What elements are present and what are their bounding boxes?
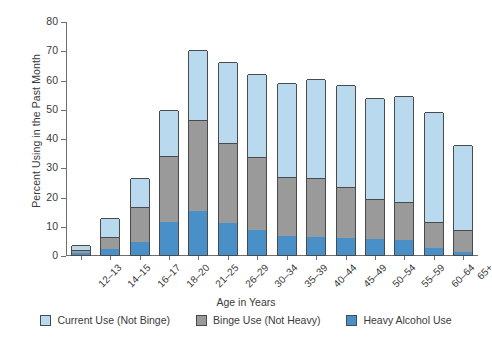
bar-segment-binge [131, 207, 149, 242]
legend-label: Binge Use (Not Heavy) [213, 314, 320, 326]
x-tick-label: 40–44 [331, 262, 358, 289]
bar-segment-binge [366, 199, 384, 239]
bar-segment-binge [248, 157, 266, 230]
y-tick-mark [61, 81, 66, 82]
y-tick-mark [61, 139, 66, 140]
bar-segment-binge [307, 178, 325, 237]
x-tick-mark [434, 256, 435, 260]
plot-area: 01020304050607080 [66, 22, 478, 256]
x-tick-label: 45–49 [361, 262, 388, 289]
bar-segment-binge [219, 143, 237, 223]
bar-segment-current [72, 245, 90, 249]
x-tick-label: 65+ [475, 262, 492, 282]
x-tick-mark [140, 256, 141, 260]
bar-segment-heavy [425, 248, 443, 255]
y-tick-label: 0 [52, 249, 58, 261]
bar-stack [365, 99, 385, 256]
bar-segment-heavy [72, 253, 90, 255]
x-tick-label: 12–13 [96, 262, 123, 289]
bar-segment-heavy [454, 252, 472, 255]
bar-stack [71, 246, 91, 256]
bar-segment-heavy [101, 249, 119, 255]
bar-stack [424, 113, 444, 256]
x-tick-mark [110, 256, 111, 260]
bar-stack [394, 97, 414, 256]
y-tick-mark [61, 256, 66, 257]
bar-segment-binge [101, 237, 119, 249]
bar-stack [306, 80, 326, 256]
bar-segment-current [101, 218, 119, 237]
bar-segment-current [160, 110, 178, 155]
bar-segment-heavy [366, 239, 384, 255]
legend-item: Heavy Alcohol Use [346, 314, 451, 326]
bar-stack [277, 84, 297, 256]
bar-segment-current [219, 62, 237, 143]
bar-segment-current [337, 85, 355, 186]
bar-segment-binge [189, 120, 207, 210]
bar-segment-heavy [307, 237, 325, 255]
x-tick-mark [228, 256, 229, 260]
x-tick-label: 30–34 [272, 262, 299, 289]
bar-segment-current [278, 83, 296, 177]
legend-item: Current Use (Not Binge) [40, 314, 170, 326]
x-tick-mark [198, 256, 199, 260]
bar-stack [100, 219, 120, 256]
x-tick-mark [316, 256, 317, 260]
bar-segment-heavy [278, 236, 296, 255]
x-axis-line [66, 255, 478, 256]
bar-segment-current [131, 178, 149, 207]
x-tick-mark [287, 256, 288, 260]
legend-swatch-icon [40, 315, 51, 326]
bar-segment-binge [72, 250, 90, 253]
bar-segment-binge [160, 156, 178, 223]
bar-segment-heavy [219, 223, 237, 255]
x-tick-label: 26–29 [243, 262, 270, 289]
x-tick-mark [81, 256, 82, 260]
y-tick-label: 70 [46, 44, 58, 56]
bar-segment-heavy [160, 222, 178, 255]
bar-segment-current [425, 112, 443, 222]
y-tick-label: 40 [46, 132, 58, 144]
bar-segment-current [395, 96, 413, 202]
bar-segment-current [307, 79, 325, 179]
bar-segment-heavy [131, 242, 149, 255]
x-tick-label: 50–54 [390, 262, 417, 289]
x-tick-label: 60–64 [449, 262, 476, 289]
bar-stack [188, 51, 208, 256]
legend-swatch-icon [196, 315, 207, 326]
bar-segment-heavy [248, 230, 266, 255]
bar-segment-heavy [395, 240, 413, 255]
bar-segment-heavy [337, 238, 355, 255]
y-axis-title: Percent Using in the Past Month [30, 16, 42, 246]
chart-legend: Current Use (Not Binge)Binge Use (Not He… [0, 314, 492, 326]
y-tick-label: 80 [46, 15, 58, 27]
bar-segment-binge [337, 187, 355, 238]
x-tick-label: 35–39 [302, 262, 329, 289]
bar-segment-binge [454, 230, 472, 251]
bar-stack [130, 179, 150, 256]
y-tick-label: 60 [46, 74, 58, 86]
y-tick-label: 10 [46, 220, 58, 232]
bar-segment-current [454, 145, 472, 231]
bar-stack [247, 75, 267, 256]
bar-segment-current [366, 98, 384, 199]
y-tick-mark [61, 198, 66, 199]
legend-swatch-icon [346, 315, 357, 326]
bar-segment-current [189, 50, 207, 120]
bar-segment-binge [278, 177, 296, 236]
x-tick-mark [463, 256, 464, 260]
x-tick-mark [169, 256, 170, 260]
legend-label: Heavy Alcohol Use [363, 314, 451, 326]
bar-stack [336, 86, 356, 256]
legend-label: Current Use (Not Binge) [57, 314, 170, 326]
bar-segment-binge [425, 222, 443, 247]
y-axis-line [66, 22, 67, 256]
y-tick-mark [61, 168, 66, 169]
y-tick-label: 50 [46, 103, 58, 115]
y-tick-label: 20 [46, 191, 58, 203]
x-tick-label: 55–59 [420, 262, 447, 289]
x-axis-title: Age in Years [0, 296, 492, 308]
bar-stack [159, 111, 179, 256]
alcohol-use-by-age-chart: Percent Using in the Past Month 01020304… [0, 0, 492, 347]
x-tick-label: 14–15 [125, 262, 152, 289]
